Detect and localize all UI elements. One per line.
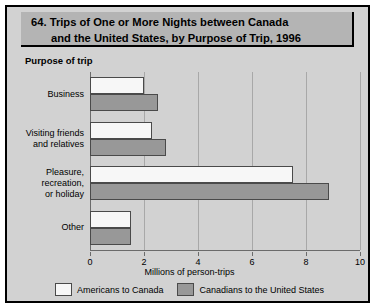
x-axis-tick-label: 8 bbox=[303, 257, 308, 267]
x-axis-label: Millions of person-trips bbox=[7, 267, 372, 277]
bar bbox=[90, 77, 144, 94]
chart-title-line-1: 64. Trips of One or More Nights between … bbox=[21, 14, 352, 30]
plot-area: BusinessVisiting friendsand relativesPle… bbox=[90, 72, 360, 250]
x-axis-tick-label: 0 bbox=[87, 257, 92, 267]
legend-swatch-icon-americans bbox=[55, 283, 72, 296]
x-axis-tick bbox=[144, 252, 145, 256]
x-axis-tick-label: 4 bbox=[195, 257, 200, 267]
x-axis-tick-label: 10 bbox=[355, 257, 365, 267]
category-label: Business bbox=[6, 89, 84, 100]
category-label: Pleasure,recreation,or holiday bbox=[6, 167, 84, 200]
bar bbox=[90, 211, 131, 228]
x-axis-tick-label: 2 bbox=[141, 257, 146, 267]
bar bbox=[90, 183, 329, 200]
x-axis-line bbox=[90, 250, 360, 251]
x-axis-tick bbox=[360, 252, 361, 256]
legend-label-canadians: Canadians to the United States bbox=[199, 285, 324, 295]
category-label: Other bbox=[6, 222, 84, 233]
x-axis-tick bbox=[90, 252, 91, 256]
bar bbox=[90, 228, 131, 245]
gridline bbox=[360, 72, 361, 250]
chart-legend: Americans to Canada Canadians to the Uni… bbox=[7, 283, 372, 296]
x-axis-tick bbox=[252, 252, 253, 256]
legend-label-americans: Americans to Canada bbox=[77, 285, 164, 295]
bar bbox=[90, 122, 152, 139]
y-axis-title: Purpose of trip bbox=[25, 55, 93, 66]
category-label: Visiting friendsand relatives bbox=[6, 128, 84, 150]
chart-title: 64. Trips of One or More Nights between … bbox=[21, 12, 354, 47]
gridline bbox=[252, 72, 253, 250]
figure-panel: 64. Trips of One or More Nights between … bbox=[5, 5, 370, 303]
bar bbox=[90, 139, 166, 156]
chart-title-line-2: and the United States, by Purpose of Tri… bbox=[21, 30, 352, 46]
legend-swatch-icon-canadians bbox=[177, 283, 194, 296]
plot-inner: BusinessVisiting friendsand relativesPle… bbox=[90, 72, 360, 250]
x-axis-tick-label: 6 bbox=[249, 257, 254, 267]
bar bbox=[90, 166, 293, 183]
bar bbox=[90, 94, 158, 111]
legend-entry-canadians: Canadians to the United States bbox=[177, 283, 324, 296]
x-axis-tick bbox=[306, 252, 307, 256]
x-axis-tick bbox=[198, 252, 199, 256]
gridline bbox=[198, 72, 199, 250]
legend-entry-americans: Americans to Canada bbox=[55, 283, 164, 296]
gridline bbox=[306, 72, 307, 250]
